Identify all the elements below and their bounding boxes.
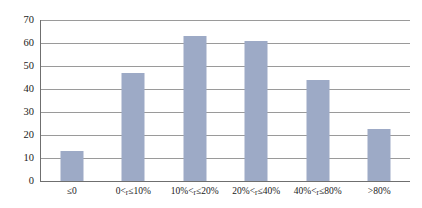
bar[interactable]: [306, 80, 329, 181]
bar[interactable]: [368, 129, 391, 181]
bar[interactable]: [245, 41, 268, 181]
y-axis-tick-label: 20: [8, 130, 34, 140]
bar-slot: [226, 20, 288, 181]
bar[interactable]: [183, 36, 206, 181]
x-axis-tick-label: 40%<r≤80%: [287, 185, 349, 198]
x-axis-tick-label: 0<r≤10%: [103, 185, 165, 198]
y-axis-tick-label: 60: [8, 38, 34, 48]
y-axis-tick-label: 10: [8, 153, 34, 163]
y-axis-tick-label: 0: [8, 176, 34, 186]
bar-slot: [164, 20, 226, 181]
bar-slot: [41, 20, 103, 181]
y-axis-tick-label: 70: [8, 15, 34, 25]
bar-slot: [349, 20, 411, 181]
x-axis-tick-labels: ≤00<r≤10%10%<r≤20%20%<r≤40%40%<r≤80%>80%: [41, 185, 410, 205]
y-axis-tick-label: 50: [8, 61, 34, 71]
x-axis-tick-label: 10%<r≤20%: [164, 185, 226, 198]
x-axis-tick-label: 20%<r≤40%: [226, 185, 288, 198]
x-axis-tick-label: >80%: [349, 185, 411, 197]
y-axis-tick-label: 30: [8, 107, 34, 117]
variable-symbol: r: [126, 188, 129, 197]
variable-symbol: r: [317, 188, 320, 197]
x-axis-tick-label: ≤0: [41, 185, 103, 197]
gridline: [40, 181, 410, 182]
bars-layer: [41, 20, 410, 181]
bar[interactable]: [122, 73, 145, 181]
bar-chart-figure: 010203040506070 ≤00<r≤10%10%<r≤20%20%<r≤…: [0, 0, 422, 208]
variable-symbol: r: [255, 188, 258, 197]
bar-slot: [287, 20, 349, 181]
bar[interactable]: [60, 151, 83, 181]
bar-slot: [103, 20, 165, 181]
y-axis-tick-label: 40: [8, 84, 34, 94]
variable-symbol: r: [194, 188, 197, 197]
